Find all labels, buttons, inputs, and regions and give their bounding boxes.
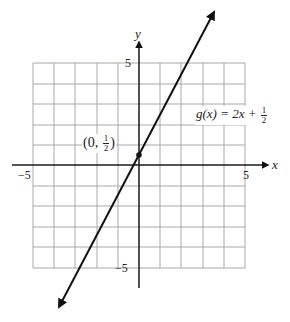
coordinate-plane bbox=[0, 0, 290, 322]
y-min-tick: −5 bbox=[115, 261, 128, 276]
x-max-tick: 5 bbox=[243, 168, 249, 183]
fraction-half: 12 bbox=[103, 134, 110, 153]
x-min-tick: −5 bbox=[18, 168, 31, 183]
x-axis-label: x bbox=[272, 157, 278, 173]
y-axis-label: y bbox=[135, 26, 141, 42]
function-label-text: g(x) = 2x + bbox=[196, 106, 260, 121]
intercept-label: (0, 12) bbox=[82, 134, 116, 153]
fraction-half: 12 bbox=[261, 106, 268, 125]
function-label: g(x) = 2x + 12 bbox=[195, 106, 269, 125]
y-intercept-point bbox=[136, 152, 142, 158]
y-max-tick: 5 bbox=[125, 56, 131, 71]
intercept-label-prefix: (0, bbox=[83, 135, 102, 150]
intercept-label-suffix: ) bbox=[110, 135, 115, 150]
function-line bbox=[59, 12, 214, 307]
